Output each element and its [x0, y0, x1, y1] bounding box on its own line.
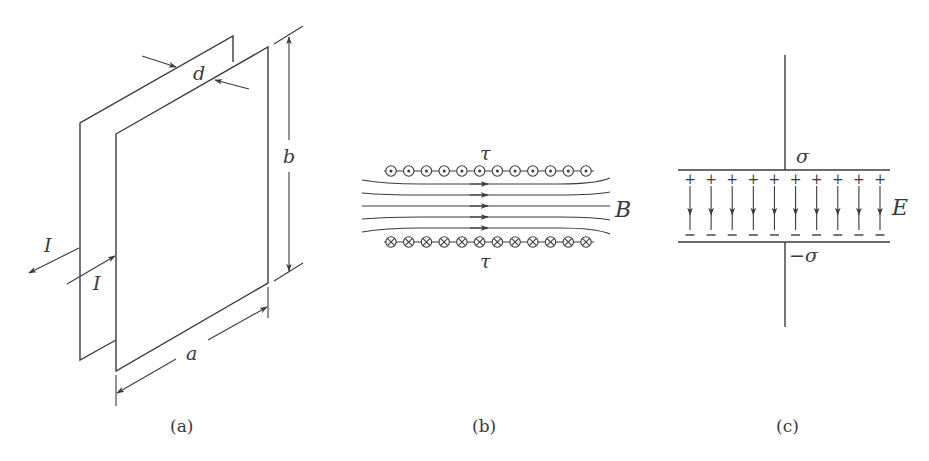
label-B: B — [614, 197, 631, 222]
d-arrow-right — [215, 80, 249, 89]
label-tau-top: τ — [480, 142, 491, 164]
plus-sign: + — [705, 171, 717, 187]
plus-sign: + — [790, 171, 802, 187]
label-E: E — [891, 195, 908, 220]
caption-a: (a) — [170, 416, 193, 436]
plus-sign: + — [874, 171, 886, 187]
figure-canvas: d b a I I (a) τ τ — [0, 0, 929, 461]
panel-b: τ τ B (b) — [362, 142, 631, 436]
label-b: b — [283, 145, 295, 167]
plus-sign: + — [853, 171, 865, 187]
caption-b: (b) — [472, 416, 496, 436]
plus-sign: + — [747, 171, 759, 187]
label-sigma-top: σ — [796, 145, 810, 167]
panel-a: d b a I I (a) — [29, 26, 303, 436]
label-current-out: I — [43, 234, 52, 256]
plus-sign: + — [769, 171, 781, 187]
label-a: a — [186, 342, 197, 364]
current-out-arrow — [29, 248, 79, 273]
current-in-arrow — [67, 256, 115, 284]
caption-c: (c) — [776, 416, 799, 436]
plus-sign: + — [832, 171, 844, 187]
panel-c: σ −σ ++++++++++ E (c) — [678, 55, 908, 436]
plus-sign: + — [684, 171, 696, 187]
plus-sign: + — [726, 171, 738, 187]
front-plate — [116, 47, 268, 371]
field-lines — [362, 178, 610, 234]
label-d: d — [193, 62, 205, 84]
label-current-in: I — [92, 272, 101, 294]
a-arrow-left — [117, 359, 176, 393]
field-arrows: ++++++++++ — [684, 171, 886, 235]
d-arrow-left — [142, 56, 176, 67]
label-tau-bottom: τ — [480, 250, 491, 272]
plus-sign: + — [811, 171, 823, 187]
label-sigma-bottom: −σ — [789, 244, 819, 266]
back-plate — [80, 36, 233, 360]
